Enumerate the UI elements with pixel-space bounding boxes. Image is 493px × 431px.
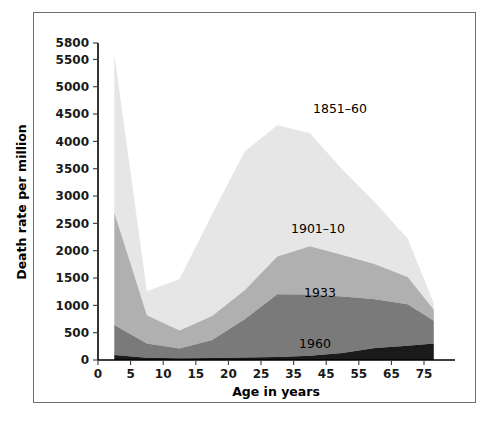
y-tick-label: 1000 [56, 299, 89, 313]
chart-figure: 0500100015002000250030003500400045005000… [0, 0, 493, 431]
series-annotation-1960: 1960 [299, 336, 331, 351]
x-tick-label: 75 [416, 367, 433, 381]
series-annotation-1901-10: 1901–10 [291, 221, 345, 236]
x-tick-label: 55 [350, 367, 367, 381]
stacked-area-chart: 0500100015002000250030003500400045005000… [0, 0, 493, 431]
x-tick-label: 25 [253, 367, 270, 381]
y-tick-label: 5000 [56, 80, 89, 94]
x-tick-label: 10 [155, 367, 172, 381]
y-tick-label: 4500 [56, 107, 89, 121]
y-axis-ticks: 0500100015002000250030003500400045005000… [56, 36, 98, 367]
x-tick-label: 45 [318, 367, 335, 381]
y-tick-label: 4000 [56, 135, 89, 149]
y-tick-label: 0 [81, 353, 89, 367]
x-tick-label: 20 [220, 367, 237, 381]
x-axis-ticks: 05101520253545556575 [94, 360, 433, 381]
y-tick-label: 3500 [56, 162, 89, 176]
y-tick-label: 2500 [56, 217, 89, 231]
series-annotation-1851-60: 1851–60 [313, 101, 367, 116]
y-axis-title: Death rate per million [14, 124, 29, 280]
y-tick-label: 500 [64, 326, 89, 340]
y-tick-label: 5800 [56, 36, 89, 50]
x-tick-label: 5 [126, 367, 134, 381]
x-tick-label: 65 [383, 367, 400, 381]
area-series-group [114, 54, 433, 360]
y-tick-label: 5500 [56, 53, 89, 67]
y-tick-label: 3000 [56, 189, 89, 203]
y-tick-label: 2000 [56, 244, 89, 258]
x-axis-title: Age in years [232, 384, 320, 399]
series-annotation-1933: 1933 [304, 285, 336, 300]
x-tick-label: 0 [94, 367, 102, 381]
y-tick-label: 1500 [56, 271, 89, 285]
x-tick-label: 15 [187, 367, 204, 381]
x-tick-label: 35 [285, 367, 302, 381]
